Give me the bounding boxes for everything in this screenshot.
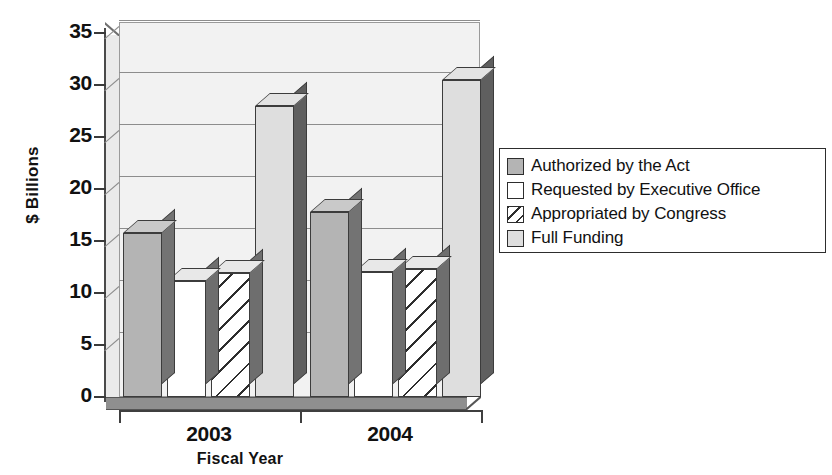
y-tick-label: 20 xyxy=(46,175,92,199)
legend-swatch-icon xyxy=(507,182,524,199)
y-tick-label: 35 xyxy=(46,19,92,43)
gridline xyxy=(119,20,480,21)
bar-front-face xyxy=(310,212,349,397)
bar-side-face xyxy=(481,55,494,383)
y-tick-label: 30 xyxy=(46,71,92,95)
legend-swatch-icon xyxy=(507,158,524,175)
y-tick-mark xyxy=(94,292,106,294)
x-axis-title: Fiscal Year xyxy=(0,450,480,468)
plot-left-wall xyxy=(106,35,120,410)
y-tick-mark xyxy=(94,344,106,346)
legend-item-2[interactable]: Requested by Executive Office xyxy=(507,178,819,202)
y-tick-label: 25 xyxy=(46,123,92,147)
bar-chart: $ Billions 05101520253035 20032004 Fisca… xyxy=(0,0,832,475)
y-tick-label: 0 xyxy=(46,383,92,407)
legend-label: Full Funding xyxy=(531,228,623,248)
y-tick-mark xyxy=(94,240,106,242)
x-tick-mark xyxy=(300,410,302,423)
legend-item-1[interactable]: Authorized by the Act xyxy=(507,154,819,178)
bar-side-face xyxy=(349,188,362,384)
bar-front-face xyxy=(123,233,162,397)
gridline xyxy=(119,72,480,73)
legend-item-3[interactable]: Appropriated by Congress xyxy=(507,202,819,226)
legend-label: Requested by Executive Office xyxy=(531,180,760,200)
legend-swatch-icon xyxy=(507,230,524,247)
bar-2003-1 xyxy=(123,233,162,397)
y-tick-mark xyxy=(94,396,106,398)
legend-swatch-icon xyxy=(507,206,524,223)
x-tick-label-2003: 2003 xyxy=(149,422,269,446)
bar-side-face xyxy=(294,81,307,383)
plot-floor xyxy=(106,397,467,410)
y-axis-title: $ Billions xyxy=(23,100,43,270)
legend-item-4[interactable]: Full Funding xyxy=(507,226,819,250)
y-tick-mark xyxy=(94,84,106,86)
legend-label: Appropriated by Congress xyxy=(531,204,726,224)
chart-legend: Authorized by the ActRequested by Execut… xyxy=(499,148,826,253)
y-tick-label: 10 xyxy=(46,279,92,303)
legend-label: Authorized by the Act xyxy=(531,156,690,176)
y-tick-mark xyxy=(94,136,106,138)
y-tick-label: 15 xyxy=(46,227,92,251)
x-tick-mark xyxy=(481,410,483,423)
y-tick-mark xyxy=(94,188,106,190)
y-tick-label: 5 xyxy=(46,331,92,355)
bar-side-face xyxy=(162,208,175,384)
bar-2004-1 xyxy=(310,212,349,397)
x-tick-label-2004: 2004 xyxy=(330,422,450,446)
x-tick-mark xyxy=(119,410,121,423)
